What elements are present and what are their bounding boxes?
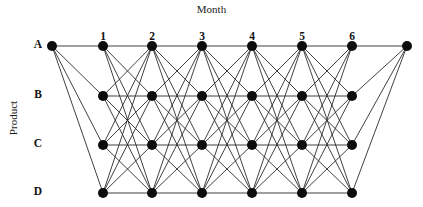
column-label-2: 2 <box>142 30 162 42</box>
column-label-3: 3 <box>192 30 212 42</box>
node-D1[interactable] <box>98 188 108 198</box>
network-diagram-figure: Month Product 123456 ABCD <box>0 0 423 207</box>
node-A4[interactable] <box>247 41 257 51</box>
edge-source-to-B1 <box>52 46 103 96</box>
node-D4[interactable] <box>247 188 257 198</box>
column-label-5: 5 <box>292 30 312 42</box>
node-B1[interactable] <box>98 91 108 101</box>
node-B2[interactable] <box>147 91 157 101</box>
node-D5[interactable] <box>297 188 307 198</box>
node-B6[interactable] <box>347 91 357 101</box>
node-B4[interactable] <box>247 91 257 101</box>
node-C3[interactable] <box>197 140 207 150</box>
column-label-1: 1 <box>93 30 113 42</box>
node-A6[interactable] <box>347 41 357 51</box>
column-label-6: 6 <box>342 30 362 42</box>
edges-layer <box>52 46 407 193</box>
node-A3[interactable] <box>197 41 207 51</box>
node-sink[interactable] <box>402 41 412 51</box>
column-label-4: 4 <box>242 30 262 42</box>
row-label-C: C <box>29 137 47 149</box>
node-B3[interactable] <box>197 91 207 101</box>
node-C4[interactable] <box>247 140 257 150</box>
edge-source-to-D1 <box>52 46 103 193</box>
edge-D6-to-sink <box>352 46 407 193</box>
node-D2[interactable] <box>147 188 157 198</box>
node-C2[interactable] <box>147 140 157 150</box>
row-label-B: B <box>29 88 47 100</box>
node-A1[interactable] <box>98 41 108 51</box>
node-C6[interactable] <box>347 140 357 150</box>
node-C5[interactable] <box>297 140 307 150</box>
node-D3[interactable] <box>197 188 207 198</box>
node-C1[interactable] <box>98 140 108 150</box>
x-axis-title: Month <box>0 3 423 15</box>
node-source[interactable] <box>47 41 57 51</box>
edge-C6-to-sink <box>352 46 407 145</box>
node-D6[interactable] <box>347 188 357 198</box>
nodes-layer <box>47 41 412 198</box>
row-label-D: D <box>29 185 47 197</box>
edge-source-to-C1 <box>52 46 103 145</box>
y-axis-title: Product <box>7 83 19 153</box>
edge-B6-to-sink <box>352 46 407 96</box>
node-A2[interactable] <box>147 41 157 51</box>
node-A5[interactable] <box>297 41 307 51</box>
row-label-A: A <box>29 38 47 50</box>
node-B5[interactable] <box>297 91 307 101</box>
